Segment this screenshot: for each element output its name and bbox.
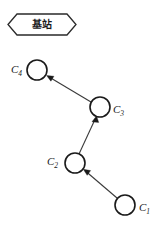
edge-c2-c3-line [79,119,95,154]
node-c4-label-sub: 4 [18,69,22,78]
node-c4-circle[interactable] [27,60,47,80]
node-c4[interactable]: C4 [11,60,47,80]
edge-c3-c4-line [50,77,92,102]
node-c3-circle[interactable] [90,97,110,117]
node-c3-label: C3 [113,103,124,118]
base-station-label: 基站 [31,18,52,30]
diagram-canvas: 基站 C4 C3 [0,0,154,227]
edge-c1-c2-line [86,172,117,199]
node-c4-label: C4 [11,63,22,78]
node-c1-label-sub: 1 [146,207,150,216]
node-c1-label: C1 [139,201,150,216]
node-c3[interactable]: C3 [90,97,124,118]
edge-c1-c2 [83,169,117,198]
base-station-node: 基站 [8,14,76,35]
node-c3-label-sub: 3 [119,109,124,118]
edge-c3-c4 [47,76,91,103]
node-c2-label: C2 [47,155,58,170]
node-c2[interactable]: C2 [47,153,85,173]
node-chain-diagram: 基站 C4 C3 [0,0,154,227]
node-c1-circle[interactable] [115,195,135,215]
node-c2-label-sub: 2 [54,161,58,170]
edge-c2-c3 [79,116,99,154]
node-c1[interactable]: C1 [115,195,150,216]
edge-c3-c4-arrowhead [47,76,54,82]
node-c2-circle[interactable] [65,153,85,173]
